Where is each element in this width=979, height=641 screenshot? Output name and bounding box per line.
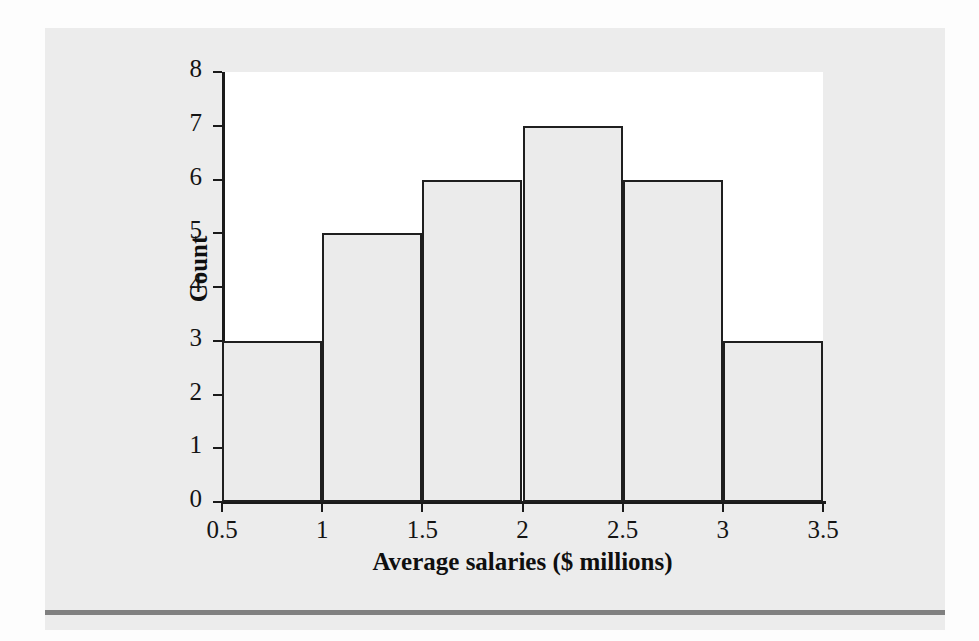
y-axis-tick xyxy=(213,71,222,73)
y-axis-tick xyxy=(213,340,222,342)
y-axis-tick xyxy=(213,179,222,181)
y-axis-tick-label: 0 xyxy=(162,485,202,513)
histogram-bar xyxy=(222,341,322,502)
y-axis-tick xyxy=(213,232,222,234)
y-axis-tick-label: 8 xyxy=(162,55,202,83)
x-axis-title: Average salaries ($ millions) xyxy=(222,548,823,576)
y-axis-tick xyxy=(213,447,222,449)
scanned-page: of a profession. Compare the distributio… xyxy=(0,0,979,641)
y-axis-title: Count xyxy=(185,209,213,329)
histogram-bar xyxy=(422,180,522,503)
y-axis-tick-label: 7 xyxy=(162,109,202,137)
histogram-bar xyxy=(322,233,422,502)
x-axis-tick xyxy=(221,502,223,512)
x-axis-tick-label: 3.5 xyxy=(788,516,858,544)
histogram-bar xyxy=(623,180,723,503)
y-axis-tick-label: 1 xyxy=(162,431,202,459)
y-axis-tick xyxy=(213,125,222,127)
x-axis-tick-label: 2.5 xyxy=(588,516,658,544)
y-axis-tick-label: 6 xyxy=(162,163,202,191)
x-axis-tick xyxy=(421,502,423,512)
x-axis-tick xyxy=(321,502,323,512)
x-axis-tick xyxy=(622,502,624,512)
y-axis-tick xyxy=(213,394,222,396)
histogram-bar xyxy=(723,341,823,502)
x-axis-tick xyxy=(822,502,824,512)
x-axis-tick-label: 1.5 xyxy=(387,516,457,544)
x-axis-tick-label: 0.5 xyxy=(187,516,257,544)
y-axis-tick xyxy=(213,286,222,288)
histogram-bar xyxy=(523,126,623,502)
horizontal-rule xyxy=(45,610,945,615)
x-axis-tick xyxy=(722,502,724,512)
x-axis-tick-label: 2 xyxy=(488,516,558,544)
x-axis-tick-label: 1 xyxy=(287,516,357,544)
x-axis-tick-label: 3 xyxy=(688,516,758,544)
x-axis-tick xyxy=(522,502,524,512)
y-axis-tick-label: 2 xyxy=(162,378,202,406)
